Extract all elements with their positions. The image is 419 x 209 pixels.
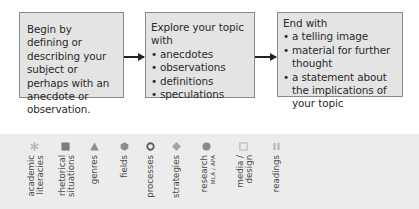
section-nav-band: academic literacies rhetorical situation… — [0, 134, 419, 209]
tab-label: fields — [120, 155, 129, 178]
tab-label: media / design — [236, 155, 254, 187]
explore-list: anecdotes observations definitions specu… — [151, 48, 249, 102]
list-item: a statement about the implications of yo… — [283, 71, 397, 111]
tab-academic-literacies[interactable]: academic literacies — [24, 134, 46, 209]
tab-sublabel: MLA / APA — [210, 155, 216, 184]
tab-label: strategies — [172, 155, 181, 198]
tab-label: research MLA / APA — [200, 155, 218, 192]
end-heading: End with — [283, 17, 397, 30]
tab-label: rhetorical situations — [58, 155, 76, 197]
list-item: material for further thought — [283, 44, 397, 71]
open-square-icon — [239, 142, 248, 151]
tab-processes[interactable]: processes — [144, 134, 158, 209]
flow-box-end: End with a telling image material for fu… — [277, 12, 403, 97]
arrow-right-icon — [124, 56, 144, 58]
tab-research[interactable]: research MLA / APA — [198, 134, 216, 209]
list-item: observations — [151, 61, 249, 74]
list-item: anecdotes — [151, 48, 249, 61]
tab-label: genres — [90, 155, 99, 184]
asterisk-icon — [30, 142, 39, 151]
list-item: definitions — [151, 75, 249, 88]
tab-readings[interactable]: readings — [270, 134, 284, 209]
arrow-right-icon — [255, 56, 276, 58]
explore-heading: Explore your topic with — [151, 21, 249, 48]
diamond-icon — [172, 142, 181, 151]
flow-box-begin: Begin by defining or describing your sub… — [19, 12, 124, 98]
list-item: a telling image — [283, 30, 397, 43]
triangle-icon — [90, 142, 99, 151]
tab-media-design[interactable]: media / design — [233, 134, 255, 209]
flow-box-explore: Explore your topic with anecdotes observ… — [145, 12, 255, 98]
ring-icon — [146, 142, 155, 151]
square-icon — [61, 142, 70, 151]
end-list: a telling image material for further tho… — [283, 30, 397, 110]
list-item: speculations — [151, 88, 249, 101]
begin-text: Begin by defining or describing your sub… — [27, 23, 109, 115]
circle-icon — [202, 142, 211, 151]
tab-label: academic literacies — [27, 155, 45, 196]
tab-strategies[interactable]: strategies — [170, 134, 184, 209]
tab-genres[interactable]: genres — [88, 134, 102, 209]
hexagon-icon — [120, 142, 129, 151]
pause-bars-icon — [272, 142, 281, 151]
tab-fields[interactable]: fields — [118, 134, 132, 209]
tab-label: readings — [272, 155, 281, 192]
tab-label: processes — [146, 155, 155, 198]
tab-rhetorical-situations[interactable]: rhetorical situations — [55, 134, 77, 209]
